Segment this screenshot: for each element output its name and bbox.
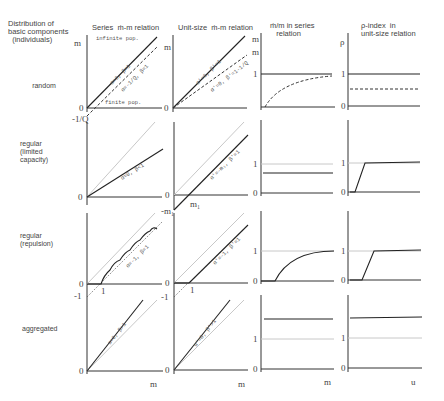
svg-text:0: 0 (164, 103, 169, 113)
label-infinite-pop: infinite pop. (96, 35, 139, 42)
svg-text:0: 0 (79, 103, 84, 113)
svg-text:α=-1, β=1: α=-1, β=1 (124, 243, 150, 269)
svg-text:0: 0 (79, 366, 84, 376)
svg-text:1: 1 (341, 69, 346, 79)
svg-text:-1: -1 (161, 292, 169, 302)
svg-text:1: 1 (101, 286, 106, 296)
figure-canvas: m 0 -1/Q infinite pop. finite pop. α=0, … (0, 0, 444, 401)
svg-text:m: m (252, 47, 259, 57)
y-axis-label: m (74, 38, 81, 48)
svg-text:0: 0 (341, 275, 346, 285)
svg-text:0: 0 (78, 192, 83, 202)
svg-text:0: 0 (253, 276, 258, 286)
panel-r4-c1: 0 m α=0, β>1 (79, 300, 163, 389)
svg-text:1: 1 (341, 246, 346, 256)
panel-r3-c2: 0 1 -1 α'=-1, β'=1 (161, 213, 248, 302)
panel-r3-c4: 1 0 (341, 211, 421, 285)
svg-text:α=0, β>1: α=0, β>1 (106, 321, 128, 347)
panel-r4-c2: 0 m α'=0, β'>1 (165, 300, 248, 389)
svg-text:1: 1 (253, 69, 258, 79)
svg-text:u: u (411, 377, 416, 387)
svg-text:-m₁: -m₁ (161, 206, 174, 216)
svg-text:1: 1 (341, 333, 346, 343)
svg-text:0: 0 (253, 188, 258, 198)
svg-text:0: 0 (165, 365, 170, 375)
svg-text:α'=-m₁, β'=1: α'=-m₁, β'=1 (208, 148, 241, 181)
panel-r1-c2: m 0 α'=0, β'=1 α'=0, β'=1-1/Q (164, 35, 250, 113)
panel-r3-c1: 0 1 -1 α=-1, β=1 (74, 213, 162, 301)
svg-text:0: 0 (341, 363, 346, 373)
svg-text:ρ: ρ (340, 37, 345, 47)
svg-text:α'=0, β'>1: α'=0, β'>1 (192, 317, 218, 348)
panel-r4-c3: 1 0 m (253, 295, 334, 387)
svg-text:0: 0 (165, 190, 170, 200)
panel-r3-c3: 1 0 (253, 211, 334, 286)
svg-text:1: 1 (253, 246, 258, 256)
svg-text:0: 0 (165, 278, 170, 288)
panel-r2-c1: 0 α=0, β<1 (78, 122, 163, 205)
svg-text:0: 0 (341, 101, 346, 111)
svg-text:-1/Q: -1/Q (72, 114, 89, 124)
panel-r2-c4: 1 0 (341, 120, 420, 197)
svg-text:m: m (164, 42, 171, 52)
svg-text:m: m (150, 379, 157, 389)
label-finite-pop: finite pop. (105, 99, 141, 106)
svg-text:0: 0 (253, 364, 258, 374)
svg-text:1: 1 (253, 334, 258, 344)
panel-r2-c3: 1 0 (253, 120, 333, 198)
svg-text:0: 0 (79, 279, 84, 289)
svg-text:1: 1 (190, 285, 195, 295)
svg-text:1: 1 (253, 159, 258, 169)
svg-text:m₁: m₁ (190, 199, 200, 209)
svg-text:-1: -1 (74, 291, 82, 301)
panel-r1-c4: ρ 1 0 (340, 33, 420, 111)
svg-text:1: 1 (341, 158, 346, 168)
panel-r1-c1: m 0 -1/Q infinite pop. finite pop. α=0, … (72, 35, 162, 124)
svg-text:m: m (324, 377, 331, 387)
svg-text:m: m (238, 379, 245, 389)
panel-r4-c4: 1 0 u (341, 295, 422, 387)
panel-r1-c3: m m 1 (252, 33, 335, 110)
svg-text:α=0, β<1: α=0, β<1 (119, 161, 146, 181)
svg-text:m: m (252, 34, 259, 44)
svg-text:α'=-1, β'=1: α'=-1, β'=1 (211, 235, 242, 266)
svg-text:0: 0 (341, 187, 346, 197)
panel-r2-c2: 0 m₁ -m₁ α'=-m₁, β'=1 (161, 122, 248, 216)
